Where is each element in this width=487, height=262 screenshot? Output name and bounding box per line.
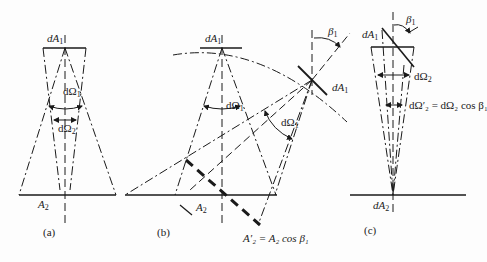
panel-b-tilted-solid-angle-label: dΩ1 <box>281 117 299 130</box>
radiation-view-factor-diagram: dA1 dΩ1 dΩ2 A2 (a) dA1 dΩ1 dΩ1 dA1 β1 A2… <box>0 0 487 262</box>
panel-c-source-area-label: dA1 <box>362 29 378 42</box>
panel-a-solid-angle-1-label: dΩ1 <box>63 86 81 99</box>
panel-c <box>350 12 466 215</box>
panel-b-projected-area-equation: A′₂ = A₂ cos β₁ <box>243 233 309 244</box>
panel-a-receiver-area-label: A2 <box>38 199 49 212</box>
panel-a-solid-angle-2-label: dΩ2 <box>58 123 76 136</box>
panel-b-solid-angle-label: dΩ1 <box>226 100 244 113</box>
panel-b-caption: (b) <box>157 227 170 238</box>
panel-a-caption: (a) <box>43 227 55 238</box>
panel-c-tilt-angle-label: β1 <box>406 14 415 27</box>
panel-b-receiver-area-label: A2 <box>196 202 207 215</box>
panel-c-caption: (c) <box>364 225 376 236</box>
panel-c-solid-angle-label: dΩ2 <box>414 71 432 84</box>
panel-c-receiver-area-label: dA2 <box>373 200 389 213</box>
panel-c-projected-solid-angle-equation: dΩ′₂ = dΩ₂ cos β₁ <box>409 100 487 111</box>
panel-b-source-area-label: dA1 <box>205 33 221 46</box>
panel-a-source-area-label: dA1 <box>47 33 63 46</box>
panel-b-tilted-source-area-label: dA1 <box>332 82 348 95</box>
panel-b-tilt-angle-label: β1 <box>328 26 337 39</box>
panel-b <box>125 30 350 225</box>
